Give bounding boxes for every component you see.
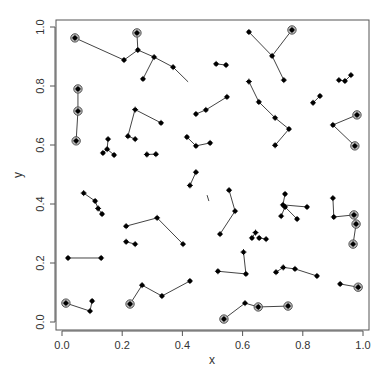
data-point [249, 235, 255, 241]
data-point [98, 255, 104, 261]
data-point [123, 239, 129, 245]
data-point [217, 231, 223, 237]
edge-line [272, 56, 284, 80]
edge-line [244, 252, 246, 274]
edge-line [124, 50, 138, 60]
data-point [232, 208, 238, 214]
x-tick-label: 1.0 [355, 339, 370, 351]
edge-line [142, 285, 162, 296]
data-point [81, 190, 87, 196]
data-point [331, 214, 337, 220]
edge-line [218, 271, 246, 274]
edge-line [135, 110, 161, 123]
data-point [278, 213, 284, 219]
data-point [281, 77, 287, 83]
data-point [336, 77, 342, 83]
data-point [139, 282, 145, 288]
scatter-plot: 0.00.20.40.60.81.0 0.00.20.40.60.81.0 x … [0, 0, 392, 385]
data-point [282, 191, 288, 197]
data-point [132, 241, 138, 247]
edge-line [206, 97, 227, 110]
data-point [256, 235, 262, 241]
data-point [193, 169, 199, 175]
edge-line [249, 32, 272, 56]
data-point [223, 62, 229, 68]
edge-line [259, 102, 275, 118]
y-tick-label: 0.2 [34, 255, 46, 270]
x-tick-label: 0.8 [295, 339, 310, 351]
data-point [95, 205, 101, 211]
data-point [280, 264, 286, 270]
edge-line [249, 82, 259, 102]
data-point [65, 255, 71, 261]
x-tick-label: 0.0 [54, 339, 69, 351]
data-point [226, 187, 232, 193]
edge-line [138, 50, 154, 57]
edge-line [162, 281, 190, 296]
y-tick-label: 0.6 [34, 137, 46, 152]
plot-frame [56, 20, 369, 330]
data-point [123, 223, 129, 229]
edge-line [275, 118, 289, 129]
data-point [273, 269, 279, 275]
data-point [224, 94, 230, 100]
data-point [105, 136, 111, 142]
data-point [337, 281, 343, 287]
edge-line [128, 109, 135, 136]
data-point [132, 136, 138, 142]
edge-line [295, 269, 317, 276]
y-axis-title: y [11, 172, 25, 178]
data-point [92, 198, 98, 204]
data-point [99, 211, 105, 217]
data-point [207, 140, 213, 146]
y-tick-label: 0.4 [34, 196, 46, 211]
y-tick-label: 0.0 [34, 314, 46, 329]
edge-line [285, 207, 297, 219]
data-point [243, 271, 249, 277]
data-point [87, 308, 93, 314]
data-point [314, 273, 320, 279]
data-point [203, 107, 209, 113]
edge-line [157, 218, 183, 244]
data-point [213, 61, 219, 67]
data-point [125, 133, 131, 139]
y-axis: 0.00.20.40.60.81.0 [34, 19, 55, 329]
data-point [241, 249, 247, 255]
data-point [158, 120, 164, 126]
data-point [151, 54, 157, 60]
edge-line [207, 195, 209, 201]
data-point [187, 278, 193, 284]
data-point [330, 195, 336, 201]
data-point [159, 293, 165, 299]
y-tick-label: 0.8 [34, 78, 46, 93]
edge-line [272, 30, 292, 56]
x-axis: 0.00.20.40.60.81.0 [54, 331, 370, 351]
data-point [153, 151, 159, 157]
edge-line [229, 190, 235, 211]
x-axis-title: x [209, 353, 215, 367]
edge-line [220, 211, 235, 234]
edge-line [154, 57, 173, 67]
data-point [187, 182, 193, 188]
edge-line [75, 38, 124, 60]
x-tick-label: 0.2 [115, 339, 130, 351]
data-point [132, 107, 138, 113]
edge-line [275, 129, 289, 145]
y-tick-label: 1.0 [34, 19, 46, 34]
data-points [62, 26, 363, 323]
data-point [304, 204, 310, 210]
x-tick-label: 0.4 [175, 339, 190, 351]
data-point [144, 151, 150, 157]
data-point [140, 76, 146, 82]
edge-line [173, 67, 188, 82]
data-point [253, 230, 259, 236]
data-point [215, 268, 221, 274]
x-tick-label: 0.6 [235, 339, 250, 351]
edge-line [143, 57, 154, 79]
data-point [89, 298, 95, 304]
data-point [246, 79, 252, 85]
edge-line [126, 218, 157, 226]
data-point [292, 266, 298, 272]
data-point [263, 236, 269, 242]
data-point [193, 111, 199, 117]
